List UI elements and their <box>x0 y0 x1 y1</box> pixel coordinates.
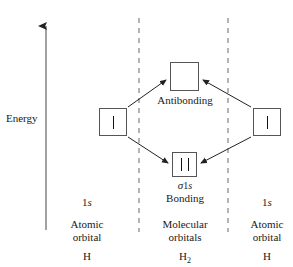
bonding-orbital-box <box>172 152 197 177</box>
right-orbital-1s-label: 1s <box>242 196 292 209</box>
sigma-subshell-letter: s <box>188 180 192 191</box>
left-subshell-letter: s <box>88 196 92 208</box>
center-species-subscript: 2 <box>187 256 191 265</box>
left-species-label: H <box>62 250 112 263</box>
arrow-right-ao-to-bonding <box>201 137 251 163</box>
left-atomic-line1: Atomic <box>62 218 112 231</box>
center-molecular-line1: Molecular <box>150 218 220 231</box>
right-species-label: H <box>242 250 292 263</box>
center-molecular-line2: orbitals <box>150 231 220 244</box>
right-atomic-line2: orbital <box>242 231 292 244</box>
mo-diagram-canvas: Energy Antibonding σ1s Bonding 1s Atomic… <box>0 0 293 267</box>
center-species-main: H <box>179 250 187 262</box>
electron-bonding-2 <box>188 158 189 171</box>
antibonding-label: Antibonding <box>150 94 220 107</box>
electron-left-ao-1 <box>113 116 114 129</box>
left-atomic-line2: orbital <box>62 231 112 244</box>
bonding-label: Bonding <box>155 192 215 205</box>
antibonding-orbital-box <box>170 62 199 91</box>
right-atomic-line1: Atomic <box>242 218 292 231</box>
left-atomic-orbital-box <box>99 108 127 136</box>
energy-axis-label: Energy <box>6 112 38 124</box>
center-species-label: H2 <box>150 250 220 267</box>
arrow-left-ao-to-bonding <box>128 137 168 163</box>
right-atomic-orbital-box <box>253 108 281 136</box>
sigma-1s-label: σ1s <box>155 179 215 192</box>
electron-bonding-1 <box>181 158 182 171</box>
electron-right-ao-1 <box>267 116 268 129</box>
left-orbital-1s-label: 1s <box>62 196 112 209</box>
right-subshell-letter: s <box>268 196 272 208</box>
